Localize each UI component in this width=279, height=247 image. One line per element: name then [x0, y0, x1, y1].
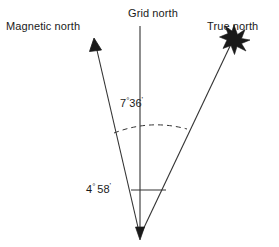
north-declination-diagram: Magnetic north Grid north True north 7°3…	[0, 0, 279, 247]
angle-gt-degree-symbol: °	[92, 182, 95, 191]
angle-gm-degree-symbol: °	[126, 96, 129, 105]
true-north-line	[140, 44, 231, 236]
true-north-label: True north	[207, 20, 258, 32]
diagram-canvas	[0, 0, 279, 247]
magnetic-north-label: Magnetic north	[6, 20, 80, 32]
angle-gm-minutes: 36	[129, 97, 141, 109]
angle-grid-to-magnetic-label: 7°36'	[120, 97, 143, 109]
magnetic-north-arrowhead-icon	[90, 38, 102, 52]
angle-gt-minutes: 58	[97, 183, 109, 195]
magnetic-north-line	[96, 46, 140, 236]
grid-north-label: Grid north	[128, 7, 178, 19]
angle-gm-minute-symbol: '	[142, 95, 144, 104]
declination-arc	[114, 125, 187, 133]
angle-grid-to-true-label: 4°58'	[86, 183, 111, 195]
origin-arrowhead-icon	[136, 227, 145, 240]
angle-gt-minute-symbol: '	[110, 181, 112, 190]
